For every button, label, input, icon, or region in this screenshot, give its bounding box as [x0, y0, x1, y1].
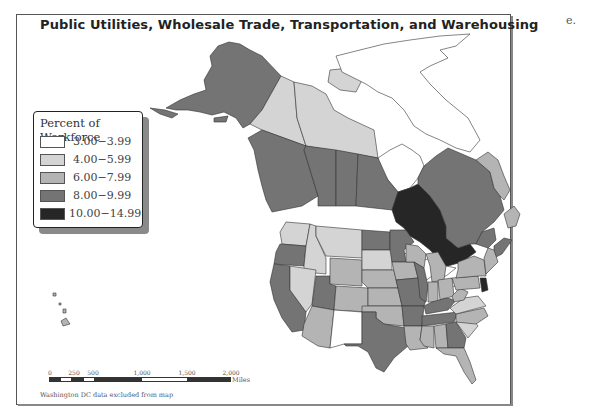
scale-tick: 500: [87, 369, 98, 376]
scale-units: Miles: [232, 376, 250, 384]
legend-row: 6.00−7.99: [40, 172, 140, 185]
region-hawaii: [61, 318, 70, 326]
legend-row: 10.00−14.99: [40, 208, 140, 221]
region-south-dakota: [362, 250, 392, 270]
region-kansas: [368, 288, 402, 306]
legend-row: 3.00−3.99: [40, 136, 140, 149]
legend-row: 4.00−5.99: [40, 154, 140, 167]
legend-label: 10.00−14.99: [69, 207, 141, 220]
scale-tick: 250: [68, 369, 79, 376]
region-arizona: [302, 306, 334, 348]
legend-label: 8.00−9.99: [73, 189, 131, 202]
scale-tick: 1,000: [133, 369, 150, 376]
legend-swatch: [40, 208, 65, 220]
legend-label: 6.00−7.99: [73, 171, 131, 184]
region-nebraska: [362, 270, 398, 288]
region-florida: [436, 348, 476, 384]
scale-segment: [142, 378, 187, 381]
region-arkansas: [402, 306, 424, 326]
scale-segment: [84, 378, 94, 381]
region-iowa: [392, 262, 418, 280]
region-alabama: [434, 324, 448, 348]
region-saskatchewan: [336, 150, 358, 206]
legend-swatch: [40, 190, 65, 202]
scale-segment: [61, 378, 71, 381]
legend-row: 8.00−9.99: [40, 190, 140, 203]
region-washington: [280, 222, 310, 246]
scale-tick: 1,500: [178, 369, 195, 376]
legend-swatch: [40, 172, 65, 184]
footnote: Washington DC data excluded from map: [40, 391, 173, 399]
scale-tick: 2,000: [222, 369, 239, 376]
legend: Percent of Workforce 3.00−3.99 4.00−5.99…: [33, 111, 143, 228]
legend-swatch: [40, 136, 65, 148]
region-hawaii-islands: [53, 293, 66, 313]
region-ohio: [438, 278, 454, 300]
region-indiana: [428, 282, 438, 302]
region-wyoming: [330, 258, 362, 286]
region-new-mexico: [330, 310, 362, 348]
legend-label: 3.00−3.99: [73, 135, 131, 148]
legend-swatch: [40, 154, 65, 166]
region-oregon: [274, 244, 306, 266]
region-nova-scotia: [494, 238, 512, 258]
region-north-dakota: [362, 230, 390, 250]
scale-bar-graphic: [49, 377, 231, 382]
scale-tick: 0: [48, 369, 52, 376]
legend-label: 4.00−5.99: [73, 153, 131, 166]
region-new-jersey: [480, 278, 488, 292]
